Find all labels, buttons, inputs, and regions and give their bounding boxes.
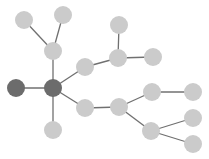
network-diagram [0,0,209,159]
node-G [76,58,94,76]
node-J [109,49,127,67]
node-P [184,109,202,127]
node-L [110,98,128,116]
node-B [54,6,72,24]
node-A [15,11,33,29]
node-D [7,79,25,97]
node-E [44,79,62,97]
node-Q [184,135,202,153]
node-F [44,121,62,139]
node-K [144,48,162,66]
node-N [184,83,202,101]
node-M [143,83,161,101]
node-C [44,42,62,60]
node-I [110,16,128,34]
nodes-layer [7,6,202,153]
node-H [76,99,94,117]
node-O [142,122,160,140]
edges-layer [16,15,193,144]
